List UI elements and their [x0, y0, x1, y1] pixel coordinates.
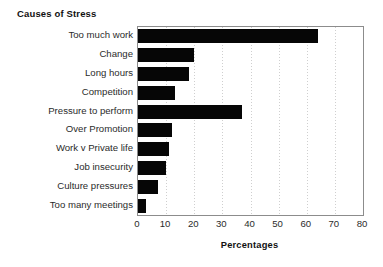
category-label: Job insecurity — [0, 161, 133, 172]
category-label: Too much work — [0, 29, 133, 40]
x-axis-tick-labels: 01020304050607080 — [0, 218, 383, 232]
x-tick-label-40: 40 — [244, 218, 255, 230]
x-tick-label-70: 70 — [329, 218, 340, 230]
category-label: Work v Private life — [0, 142, 133, 153]
bar-row — [138, 83, 363, 102]
bar[interactable] — [138, 48, 194, 62]
category-label: Culture pressures — [0, 180, 133, 191]
x-tick-label-30: 30 — [216, 218, 227, 230]
bar-row — [138, 46, 363, 65]
bar-row — [138, 177, 363, 196]
plot-area — [137, 26, 364, 216]
bar[interactable] — [138, 105, 242, 119]
category-label: Competition — [0, 86, 133, 97]
bars-layer — [138, 27, 363, 215]
x-tick-label-10: 10 — [160, 218, 171, 230]
x-axis-title: Percentages — [137, 240, 362, 250]
bar[interactable] — [138, 142, 169, 156]
bar-row — [138, 27, 363, 46]
x-tick-label-60: 60 — [300, 218, 311, 230]
bar-row — [138, 65, 363, 84]
bar[interactable] — [138, 199, 146, 213]
bar[interactable] — [138, 123, 172, 137]
bar[interactable] — [138, 29, 318, 43]
category-axis-labels: Too much workChangeLong hoursCompetition… — [0, 26, 133, 214]
bar-row — [138, 159, 363, 178]
bar[interactable] — [138, 180, 158, 194]
bar-row — [138, 121, 363, 140]
category-label: Long hours — [0, 67, 133, 78]
x-tick-label-0: 0 — [134, 218, 139, 230]
bar[interactable] — [138, 161, 166, 175]
x-tick-label-20: 20 — [188, 218, 199, 230]
category-label: Change — [0, 48, 133, 59]
bar-row — [138, 102, 363, 121]
x-tick-label-50: 50 — [272, 218, 283, 230]
x-tick-label-80: 80 — [357, 218, 368, 230]
bar-row — [138, 140, 363, 159]
category-label: Over Promotion — [0, 123, 133, 134]
bar-chart-figure: Causes of Stress Too much workChangeLong… — [0, 0, 383, 267]
category-label: Pressure to perform — [0, 105, 133, 116]
chart-title: Causes of Stress — [17, 8, 97, 19]
bar-row — [138, 196, 363, 215]
bar[interactable] — [138, 86, 175, 100]
bar[interactable] — [138, 67, 189, 81]
category-label: Too many meetings — [0, 199, 133, 210]
